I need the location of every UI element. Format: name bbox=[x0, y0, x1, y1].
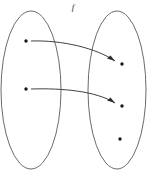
function-label: f bbox=[72, 2, 76, 12]
domain-element-dot-2 bbox=[24, 87, 27, 90]
mapping-arrow-2 bbox=[31, 89, 115, 103]
codomain-element-dot-2 bbox=[120, 104, 123, 107]
domain-element-dot-1 bbox=[24, 39, 27, 42]
domain-set-ellipse bbox=[1, 11, 61, 169]
function-mapping-diagram: f bbox=[0, 0, 149, 176]
mapping-arrow-1-head bbox=[107, 56, 115, 62]
mapping-arrow-1 bbox=[31, 41, 115, 61]
diagram-canvas: f bbox=[0, 0, 149, 176]
codomain-set-ellipse bbox=[88, 11, 146, 169]
codomain-element-dot-1 bbox=[120, 62, 123, 65]
mapping-arrow-2-head bbox=[107, 98, 115, 104]
codomain-element-dot-3 bbox=[118, 137, 121, 140]
